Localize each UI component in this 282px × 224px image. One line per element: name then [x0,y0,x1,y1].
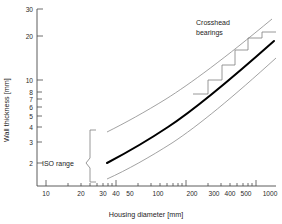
x-axis-ticks [46,180,256,186]
wall-thickness-vs-housing-diameter-chart: Wall thickness [mm] Housing diameter [mm… [0,0,282,224]
chart-container: Wall thickness [mm] Housing diameter [mm… [0,0,282,224]
x-tick-label-500: 500 [240,190,251,197]
x-axis-label: Housing diameter [mm] [109,210,183,219]
y-tick-label-2: 2 [29,160,33,167]
series-crosshead-bearings-staircase [193,32,276,94]
series-mean-wall-thickness [107,41,274,163]
y-tick-label-30: 30 [26,6,34,13]
crosshead-bearings-annotation-group: Crosshead bearings [196,19,230,37]
y-tick-label-20: 20 [26,33,34,40]
y-tick-label-6: 6 [29,104,33,111]
y-tick-label-10: 10 [26,77,34,84]
iso-range-brace [86,130,96,182]
y-tick-label-4: 4 [29,124,33,131]
x-tick-label-20: 20 [77,190,85,197]
x-tick-label-400: 400 [224,190,235,197]
series-iso-range-upper [107,19,272,132]
y-axis-ticks [37,9,43,163]
y-axis-tick-labels: 30 20 10 8 7 6 5 4 3 2 [26,6,34,167]
y-axis-label-group: Wall thickness [mm] [2,78,11,142]
y-tick-label-8: 8 [29,89,33,96]
x-tick-label-100: 100 [152,190,163,197]
x-axis-tick-labels: 10 20 30 40 50 100 200 300 400 500 1000 [42,190,277,197]
iso-range-annotation: ISO range [42,160,74,168]
crosshead-bearings-annotation-line2: bearings [196,29,223,37]
y-tick-label-5: 5 [29,113,33,120]
y-axis-label: Wall thickness [mm] [2,78,11,142]
y-tick-label-3: 3 [29,139,33,146]
x-tick-label-300: 300 [208,190,219,197]
x-tick-label-1000: 1000 [263,190,278,197]
x-tick-label-50: 50 [126,190,134,197]
x-tick-label-40: 40 [112,190,120,197]
x-tick-label-10: 10 [42,190,50,197]
y-tick-label-7: 7 [29,96,33,103]
crosshead-bearings-annotation-line1: Crosshead [196,19,230,26]
x-tick-label-30: 30 [99,190,107,197]
x-tick-label-200: 200 [186,190,197,197]
